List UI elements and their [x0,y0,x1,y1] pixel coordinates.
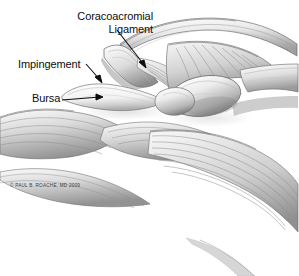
label-coracoacromial-ligament: Coracoacromial Ligament [61,10,153,35]
medical-illustration-figure: Coracoacromial Ligament Impingement Burs… [0,0,299,276]
label-impingement: Impingement [18,58,81,71]
label-coracoacromial-line2: Ligament [61,23,153,36]
label-coracoacromial-line1: Coracoacromial [61,10,153,23]
shoulder-anatomy-drawing [0,0,299,276]
copyright-credit: © PAUL B. ROACHE, MD 2009 [10,183,80,188]
head-shadow [168,109,252,127]
bursa-shadow [82,104,170,120]
label-bursa: Bursa [32,92,60,105]
